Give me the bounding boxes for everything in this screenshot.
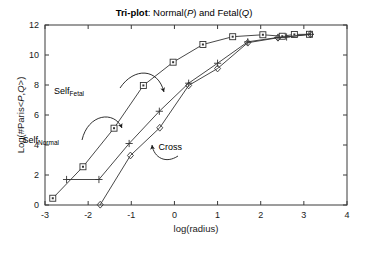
annotation-label-subscript: Normal [38, 139, 60, 146]
marker-square-center [82, 166, 84, 168]
y-tick-label: 0 [34, 200, 39, 210]
x-axis-label: log(radius) [174, 223, 219, 234]
chart-title: Tri-plot: Normal(P) and Fetal(Q) [116, 7, 253, 18]
x-tick-label: -2 [84, 210, 92, 220]
marker-square-center [202, 44, 204, 46]
y-tick-label: 6 [34, 110, 39, 120]
y-tick-label: 8 [34, 80, 39, 90]
x-tick-label: 1 [215, 210, 220, 220]
y-tick-label: 12 [29, 20, 39, 30]
chart-background [0, 0, 368, 254]
x-tick-label: -3 [41, 210, 49, 220]
annotation-label-main: Cross [158, 142, 182, 152]
tri-plot-chart: -3-2-101234 024681012 SelfFetalSelfNorma… [0, 0, 368, 254]
x-tick-label: 4 [344, 210, 349, 220]
x-tick-label: 2 [258, 210, 263, 220]
x-tick-label: 3 [301, 210, 306, 220]
x-tick-label: -1 [127, 210, 135, 220]
figure-container: -3-2-101234 024681012 SelfFetalSelfNorma… [0, 0, 368, 254]
marker-square-center [113, 127, 115, 129]
marker-square-center [52, 197, 54, 199]
y-tick-label: 2 [34, 170, 39, 180]
marker-square-center [293, 33, 295, 35]
annotation-label: Cross [158, 142, 182, 152]
y-axis-label: Log(#Paris<P,Q>) [15, 77, 26, 154]
annotation-label-subscript: Fetal [70, 90, 85, 97]
marker-square-center [232, 36, 234, 38]
marker-square-center [262, 34, 264, 36]
x-tick-label: 0 [172, 210, 177, 220]
marker-square-center [142, 84, 144, 86]
y-tick-label: 10 [29, 50, 39, 60]
annotation-label-main: Self [54, 86, 70, 96]
marker-square-center [172, 61, 174, 63]
